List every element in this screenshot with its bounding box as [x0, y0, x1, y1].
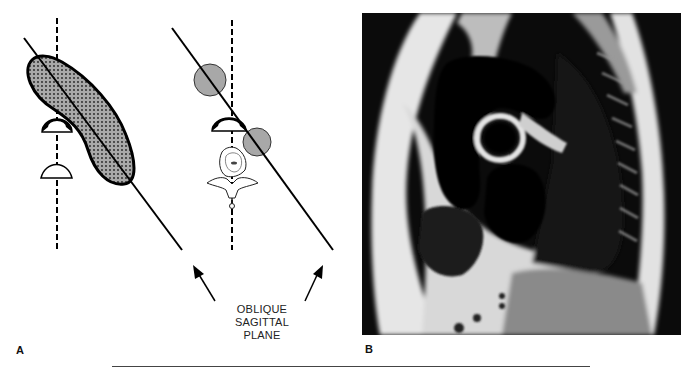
panel-a-diagram: [0, 0, 350, 345]
white-half-dome-icon: [41, 164, 72, 178]
label-line-3: PLANE: [212, 329, 312, 342]
label-line-1: OBLIQUE: [212, 303, 312, 316]
left-oblique-plane-line: [24, 38, 182, 250]
panel-label-a: A: [16, 344, 24, 356]
oblique-sagittal-plane-label: OBLIQUE SAGITTAL PLANE: [212, 303, 312, 342]
left-schematic: [24, 18, 182, 250]
caption-divider-rule: [112, 366, 590, 367]
arrow-right-icon: [305, 265, 323, 301]
arrow-left-icon: [193, 265, 215, 301]
right-oblique-plane-line: [172, 28, 333, 250]
mri-rendering: [362, 13, 681, 335]
label-line-2: SAGITTAL: [212, 316, 312, 329]
right-schematic: [172, 20, 333, 250]
mri-image: [362, 13, 681, 335]
panel-label-b: B: [365, 343, 373, 355]
